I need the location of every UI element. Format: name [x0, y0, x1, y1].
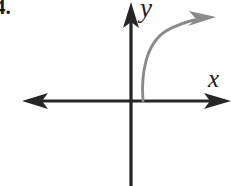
x-axis-label: x: [208, 66, 219, 91]
curved-arrow-head-icon: [188, 11, 216, 26]
y-axis-group: [123, 2, 139, 186]
curved-arrow-group: [143, 11, 216, 101]
coordinate-axes-diagram: [0, 0, 231, 186]
y-axis-label: y: [140, 0, 152, 22]
figure-canvas: 4. y x: [0, 0, 231, 186]
item-number-label: 4.: [0, 0, 11, 18]
x-axis-group: [22, 93, 231, 109]
curved-arrow-path: [143, 19, 199, 101]
